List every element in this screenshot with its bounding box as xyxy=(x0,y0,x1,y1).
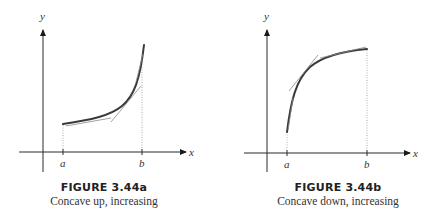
figure-a-subtitle: Concave up, increasing xyxy=(4,195,204,207)
figure-b-graph: x y a b xyxy=(244,10,418,172)
concave-up-curve xyxy=(63,45,144,124)
figure-a-title: FIGURE 3.44a xyxy=(4,181,204,194)
y-axis-label: y xyxy=(39,10,45,22)
tick-label-b: b xyxy=(364,158,370,170)
tangent-line-2 xyxy=(111,86,141,122)
tick-label-a: a xyxy=(284,158,290,170)
figure-b-title: FIGURE 3.44b xyxy=(238,181,431,194)
figure-b-subtitle: Concave down, increasing xyxy=(238,195,431,207)
tangent-line-2 xyxy=(289,55,318,91)
figure-a-graph: x y a b xyxy=(19,10,194,172)
tangent-line-3 xyxy=(320,47,366,58)
figure-b-caption: FIGURE 3.44b Concave down, increasing xyxy=(238,181,431,207)
y-axis-label: y xyxy=(263,10,269,22)
tick-label-b: b xyxy=(139,157,145,169)
figure-a-caption: FIGURE 3.44a Concave up, increasing xyxy=(4,181,204,207)
concave-down-curve xyxy=(287,49,367,132)
tick-label-a: a xyxy=(60,157,66,169)
x-axis-label: x xyxy=(188,146,194,158)
x-axis-label: x xyxy=(412,147,418,159)
